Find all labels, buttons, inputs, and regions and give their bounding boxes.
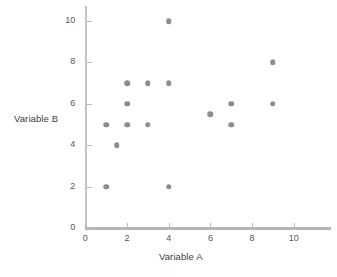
data-point xyxy=(124,80,130,86)
y-tick-mark xyxy=(87,104,92,105)
x-tick-mark xyxy=(85,223,86,228)
data-point xyxy=(124,122,130,128)
data-point xyxy=(270,101,276,107)
data-point xyxy=(145,80,151,86)
x-tick-mark xyxy=(127,223,128,228)
y-tick-mark xyxy=(87,187,92,188)
y-tick-mark xyxy=(87,228,92,229)
x-axis-label: Variable A xyxy=(159,251,203,262)
y-tick-mark xyxy=(87,21,92,22)
x-tick-mark xyxy=(210,223,211,228)
x-tick-label: 4 xyxy=(161,233,177,243)
y-axis-label: Variable B xyxy=(14,113,58,124)
x-tick-mark xyxy=(294,223,295,228)
data-point xyxy=(124,101,130,107)
data-point xyxy=(166,80,172,86)
data-point xyxy=(166,184,172,190)
y-tick-label: 8 xyxy=(59,56,75,66)
y-tick-label: 0 xyxy=(59,222,75,232)
x-tick-label: 0 xyxy=(77,233,93,243)
data-point xyxy=(114,142,120,148)
y-axis-line xyxy=(85,6,87,228)
x-tick-label: 10 xyxy=(286,233,302,243)
y-tick-mark xyxy=(87,62,92,63)
x-tick-mark xyxy=(169,223,170,228)
data-point xyxy=(145,122,151,128)
y-tick-label: 10 xyxy=(59,15,75,25)
y-tick-label: 4 xyxy=(59,139,75,149)
x-tick-label: 2 xyxy=(119,233,135,243)
x-tick-label: 8 xyxy=(244,233,260,243)
y-tick-mark xyxy=(87,145,92,146)
y-tick-label: 6 xyxy=(59,98,75,108)
x-tick-mark xyxy=(252,223,253,228)
data-point xyxy=(103,184,109,190)
data-point xyxy=(229,122,235,128)
data-point xyxy=(166,18,172,24)
data-point xyxy=(229,101,235,107)
scatter-chart: 0246810 0246810 Variable B Variable A xyxy=(0,0,337,277)
x-tick-label: 6 xyxy=(202,233,218,243)
y-tick-label: 2 xyxy=(59,181,75,191)
data-point xyxy=(208,111,214,117)
data-point xyxy=(103,122,109,128)
data-point xyxy=(270,60,276,66)
